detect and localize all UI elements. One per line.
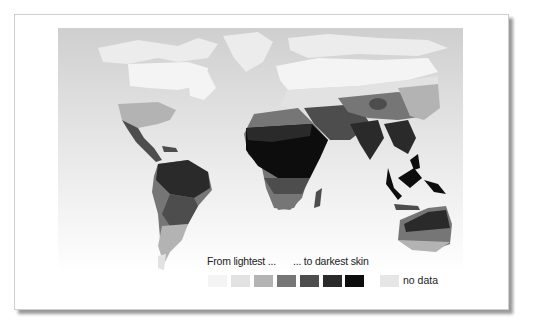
legend-swatch-4 (277, 275, 296, 287)
legend-swatch-3 (254, 275, 273, 287)
legend-swatch-2 (231, 275, 250, 287)
skin-color-world-map (58, 28, 463, 273)
legend-no-data-label: no data (403, 274, 438, 286)
legend-to-label: ... to darkest skin (293, 255, 369, 267)
legend-swatch-6 (323, 275, 342, 287)
legend-swatch-7 (345, 275, 364, 287)
legend-no-data-swatch (380, 275, 399, 287)
legend-swatch-1 (208, 275, 227, 287)
legend-swatch-5 (300, 275, 319, 287)
legend-from-label: From lightest ... (207, 255, 276, 267)
